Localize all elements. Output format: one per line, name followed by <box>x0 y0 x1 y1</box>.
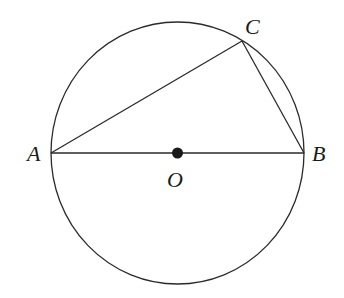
label-c: C <box>245 14 260 39</box>
segment-bc <box>242 41 304 153</box>
segment-ac <box>51 41 242 153</box>
center-dot-o <box>172 148 183 159</box>
label-a: A <box>25 141 41 166</box>
label-o: O <box>167 167 183 192</box>
geometry-diagram: A B C O <box>0 0 344 298</box>
label-b: B <box>312 141 325 166</box>
